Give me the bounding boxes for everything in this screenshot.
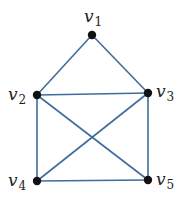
graph-diagram: v1v2v3v4v5: [0, 0, 182, 202]
label-v5: v5: [156, 169, 174, 192]
node-v4: [33, 177, 41, 185]
nodes: [33, 31, 152, 185]
label-v4: v4: [8, 170, 27, 193]
edge-v1-v3: [92, 35, 148, 93]
node-v3: [144, 89, 152, 97]
label-v1: v1: [84, 6, 102, 29]
label-v3: v3: [156, 81, 174, 104]
edge-v4-v5: [37, 180, 148, 181]
edge-v2-v3: [37, 93, 148, 95]
label-v2: v2: [8, 84, 26, 107]
edges: [37, 35, 148, 181]
node-v1: [88, 31, 96, 39]
node-v5: [144, 176, 152, 184]
node-v2: [33, 91, 41, 99]
edge-v1-v2: [37, 35, 92, 95]
